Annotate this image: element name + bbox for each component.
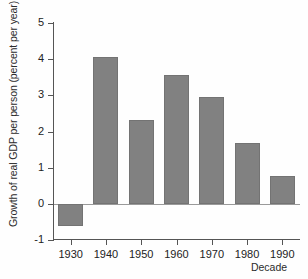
x-tick-mark bbox=[247, 239, 248, 245]
x-tick-mark bbox=[141, 239, 142, 245]
bar bbox=[93, 57, 118, 204]
y-tick-label: -1 bbox=[18, 233, 44, 245]
y-tick-mark bbox=[48, 59, 54, 60]
y-tick-mark bbox=[48, 240, 54, 241]
y-tick-mark bbox=[48, 23, 54, 24]
bar bbox=[199, 97, 224, 204]
x-tick-mark bbox=[106, 239, 107, 245]
bar-chart: Growth of real GDP per person (percent p… bbox=[0, 0, 308, 279]
y-tick-label: 5 bbox=[18, 16, 44, 28]
bar bbox=[164, 75, 189, 204]
x-tick-label: 1990 bbox=[259, 248, 305, 260]
y-tick-label: 2 bbox=[18, 125, 44, 137]
x-tick-mark bbox=[177, 239, 178, 245]
x-tick-mark bbox=[212, 239, 213, 245]
x-tick-mark bbox=[71, 239, 72, 245]
x-axis-title: Decade bbox=[236, 261, 302, 273]
bar bbox=[129, 120, 154, 204]
y-tick-label: 1 bbox=[18, 161, 44, 173]
bar bbox=[235, 143, 260, 204]
zero-reference-line bbox=[53, 204, 300, 205]
y-tick-label: 0 bbox=[18, 197, 44, 209]
bar bbox=[270, 176, 295, 204]
y-tick-label: 3 bbox=[18, 88, 44, 100]
y-tick-mark bbox=[48, 168, 54, 169]
y-tick-mark bbox=[48, 132, 54, 133]
y-tick-mark bbox=[48, 204, 54, 205]
x-tick-mark bbox=[282, 239, 283, 245]
bar bbox=[58, 204, 83, 226]
y-tick-mark bbox=[48, 95, 54, 96]
y-axis-title: Growth of real GDP per person (percent p… bbox=[7, 17, 21, 227]
y-tick-label: 4 bbox=[18, 52, 44, 64]
